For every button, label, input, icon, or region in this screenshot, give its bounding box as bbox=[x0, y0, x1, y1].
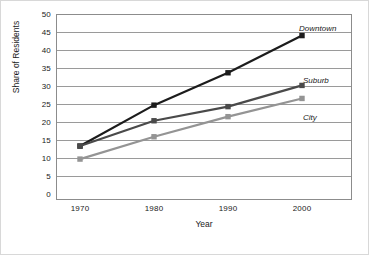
y-tick-label: 35 bbox=[25, 64, 51, 73]
x-tick-label: 1970 bbox=[57, 204, 103, 213]
y-tick-label: 0 bbox=[25, 190, 51, 199]
x-axis-label: Year bbox=[56, 219, 352, 229]
gridline bbox=[57, 176, 351, 177]
x-tick-label: 2000 bbox=[279, 204, 325, 213]
y-tick-label: 20 bbox=[25, 118, 51, 127]
series-label-suburb: Suburb bbox=[303, 76, 329, 85]
y-tick-label: 45 bbox=[25, 28, 51, 37]
y-tick-label: 40 bbox=[25, 46, 51, 55]
y-tick-label: 15 bbox=[25, 136, 51, 145]
gridline bbox=[57, 158, 351, 159]
series-label-city: City bbox=[303, 113, 317, 122]
y-axis-label: Share of Residents bbox=[11, 0, 21, 117]
y-tick-label: 5 bbox=[25, 172, 51, 181]
y-tick-label: 10 bbox=[25, 154, 51, 163]
gridline bbox=[57, 140, 351, 141]
y-tick-label: 50 bbox=[25, 10, 51, 19]
x-tick-label: 1990 bbox=[205, 204, 251, 213]
x-tick-label: 1980 bbox=[131, 204, 177, 213]
gridline bbox=[57, 68, 351, 69]
gridline bbox=[57, 122, 351, 123]
plot-area bbox=[56, 14, 352, 200]
gridline bbox=[57, 50, 351, 51]
y-tick-label: 30 bbox=[25, 82, 51, 91]
series-label-downtown: Downtown bbox=[299, 24, 336, 33]
gridline bbox=[57, 104, 351, 105]
line-chart-figure: Share of Residents 50 45 40 35 30 25 20 … bbox=[0, 0, 369, 255]
gridline bbox=[57, 86, 351, 87]
y-tick-label: 25 bbox=[25, 100, 51, 109]
